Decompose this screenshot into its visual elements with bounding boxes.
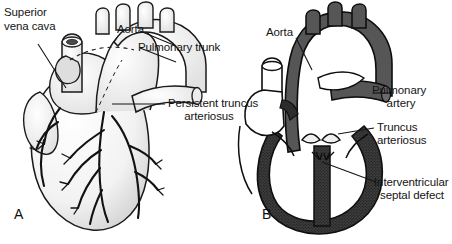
panel-b-illustration — [239, 2, 393, 234]
label-superior-vena-cava-line1: Superior — [4, 6, 47, 19]
label-persistent-truncus-line2: arteriosus — [168, 110, 250, 123]
panel-b-left-wall — [239, 126, 253, 194]
label-pulmonary-trunk: Pulmonary trunk — [138, 41, 220, 54]
label-aorta-panel-a: Aorta — [117, 23, 144, 36]
label-persistent-truncus-line1: Persistent truncus — [168, 97, 258, 110]
label-truncus-arteriosus-line2: arteriosus — [377, 134, 427, 147]
label-interventricular-septal-defect-line2: septal defect — [374, 189, 450, 202]
panel-letter-b: B — [262, 206, 271, 222]
label-superior-vena-cava-line2: vena cava — [4, 20, 56, 33]
figure-persistent-truncus-arteriosus: Superior vena cava Aorta Pulmonary trunk… — [0, 0, 452, 244]
panel-b-truncal-valve — [302, 134, 340, 143]
label-interventricular-septal-defect-line1: Interventricular — [374, 176, 448, 189]
label-pulmonary-artery-line1: Pulmonary — [372, 84, 426, 97]
label-truncus-arteriosus-line1: Truncus — [377, 121, 417, 134]
label-pulmonary-artery-line2: artery — [372, 97, 430, 110]
label-aorta-panel-b: Aorta — [266, 26, 293, 39]
panel-letter-a: A — [14, 206, 23, 222]
